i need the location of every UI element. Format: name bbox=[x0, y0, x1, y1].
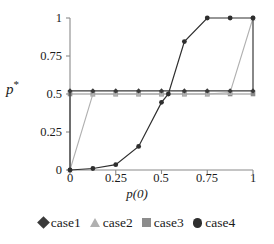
data-point-marker bbox=[113, 162, 118, 167]
legend-item-case2[interactable]: case2 bbox=[90, 216, 133, 230]
data-point-marker bbox=[136, 144, 141, 149]
square-marker-icon bbox=[142, 218, 151, 227]
legend-item-case1[interactable]: case1 bbox=[39, 216, 81, 230]
data-point-marker bbox=[159, 100, 164, 105]
data-point-marker bbox=[90, 166, 95, 171]
legend-item-case3[interactable]: case3 bbox=[142, 216, 184, 230]
legend-label-case3: case3 bbox=[154, 216, 184, 230]
legend-label-case1: case1 bbox=[51, 216, 81, 230]
data-point-marker bbox=[251, 16, 256, 21]
legend-item-case4[interactable]: case4 bbox=[193, 216, 235, 230]
data-point-marker bbox=[166, 92, 171, 97]
data-point-marker bbox=[228, 16, 233, 21]
diamond-marker-icon bbox=[37, 216, 50, 229]
chart-figure: p* 1 0.75 0.5 0.25 0 0 0.25 0.5 0.75 1 p… bbox=[0, 0, 274, 244]
data-point-marker bbox=[182, 39, 187, 44]
legend-label-case4: case4 bbox=[205, 216, 235, 230]
data-point-marker bbox=[205, 16, 210, 21]
circle-marker-icon bbox=[193, 218, 203, 228]
plot-area bbox=[0, 0, 274, 244]
data-point-marker bbox=[68, 168, 73, 173]
legend-label-case2: case2 bbox=[103, 216, 133, 230]
chart-legend: case1 case2 case3 case4 bbox=[0, 216, 274, 230]
data-series-layer bbox=[67, 15, 255, 172]
x-axis-label: p(0) bbox=[0, 186, 274, 202]
triangle-marker-icon bbox=[90, 218, 100, 227]
x-axis-ticks bbox=[70, 170, 253, 174]
